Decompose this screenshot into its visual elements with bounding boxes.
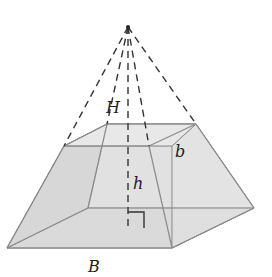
label-B: B [87, 257, 100, 276]
label-b: b [175, 142, 185, 161]
label-H: H [105, 98, 121, 117]
frustum-diagram: H b h B [0, 0, 272, 277]
label-h: h [133, 174, 143, 193]
front-face [7, 146, 172, 248]
apex-point [126, 25, 130, 29]
